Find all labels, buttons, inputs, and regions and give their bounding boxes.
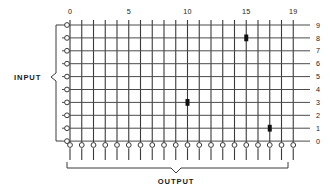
output-terminal xyxy=(209,143,214,148)
output-terminal xyxy=(68,143,73,148)
column-label: 10 xyxy=(183,7,191,16)
crosspoint-marker xyxy=(268,125,272,132)
input-label: INPUT xyxy=(14,73,41,82)
input-terminal xyxy=(65,74,70,79)
row-label: 7 xyxy=(316,46,320,55)
column-labels-group: 05101519 xyxy=(68,7,298,16)
crossbar-matrix-svg: 05101519 9876543210 INPUT OUTPUT xyxy=(0,0,330,193)
output-terminal xyxy=(279,143,284,148)
row-label: 2 xyxy=(316,111,320,120)
input-terminal xyxy=(65,87,70,92)
output-terminal xyxy=(91,143,96,148)
output-terminal xyxy=(138,143,143,148)
input-terminal xyxy=(65,113,70,118)
input-terminal xyxy=(65,61,70,66)
input-terminal xyxy=(65,100,70,105)
output-brace xyxy=(67,162,288,173)
row-label: 3 xyxy=(316,98,320,107)
row-labels-group: 9876543210 xyxy=(316,21,320,146)
row-label: 9 xyxy=(316,21,320,30)
row-label: 6 xyxy=(316,59,320,68)
output-terminal xyxy=(173,143,178,148)
output-terminal xyxy=(220,143,225,148)
row-label: 1 xyxy=(316,124,320,133)
output-terminal xyxy=(126,143,131,148)
diagram-canvas: 05101519 9876543210 INPUT OUTPUT xyxy=(0,0,330,193)
input-brace xyxy=(51,25,62,141)
row-label: 4 xyxy=(316,85,320,94)
input-terminal xyxy=(65,23,70,28)
output-terminal xyxy=(79,143,84,148)
output-terminal xyxy=(256,143,261,148)
output-label: OUTPUT xyxy=(158,177,195,186)
output-terminal xyxy=(115,143,120,148)
crosspoint-marker xyxy=(244,35,248,42)
input-terminal xyxy=(65,36,70,41)
crosspoint-markers-group xyxy=(186,35,272,132)
output-terminal xyxy=(232,143,237,148)
output-terminal xyxy=(103,143,108,148)
input-terminal-nodes-group xyxy=(65,23,70,144)
row-label: 5 xyxy=(316,72,320,81)
row-label: 8 xyxy=(316,34,320,43)
output-terminal xyxy=(267,143,272,148)
column-label: 0 xyxy=(68,7,72,16)
output-terminal xyxy=(244,143,249,148)
output-terminal xyxy=(291,143,296,148)
horizontal-input-lines-group xyxy=(62,25,310,141)
input-terminal xyxy=(65,126,70,131)
column-label: 19 xyxy=(289,7,297,16)
column-label: 5 xyxy=(127,7,131,16)
output-terminal-nodes-group xyxy=(68,143,296,148)
output-terminal xyxy=(185,143,190,148)
input-terminal xyxy=(65,48,70,53)
column-label: 15 xyxy=(242,7,250,16)
row-label: 0 xyxy=(316,137,320,146)
output-terminal xyxy=(197,143,202,148)
output-terminal xyxy=(150,143,155,148)
crosspoint-marker xyxy=(186,99,190,106)
output-terminal xyxy=(162,143,167,148)
